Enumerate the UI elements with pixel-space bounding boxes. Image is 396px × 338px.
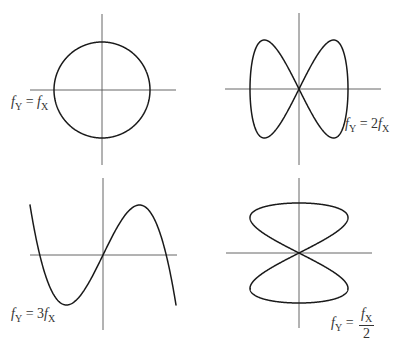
label-sub-x: X <box>48 313 55 324</box>
label-equals: = <box>342 315 357 330</box>
label-fy-equals-fx-over-2: fY = fX2 <box>331 307 374 338</box>
label-equals: = <box>22 94 37 109</box>
label-sub-x: X <box>382 123 389 134</box>
label-equals: = 3 <box>22 306 44 321</box>
fraction: fX2 <box>359 307 374 338</box>
panel-ratio-2-1 <box>225 13 381 165</box>
fraction-denominator: 2 <box>363 326 370 338</box>
label-fy-equals-2fx: fY = 2fX <box>345 117 389 134</box>
label-fy-equals-fx: fY = fX <box>11 95 48 112</box>
panel-ratio-1-2 <box>226 178 372 328</box>
label-equals: = 2 <box>356 116 378 131</box>
label-sub-x: X <box>41 101 48 112</box>
label-sub-x: X <box>365 313 372 324</box>
panel-ratio-1-1 <box>30 14 176 165</box>
lissajous-figure <box>0 0 396 338</box>
fraction-numerator: fX <box>359 307 374 326</box>
label-fy-equals-3fx: fY = 3fX <box>11 307 55 324</box>
